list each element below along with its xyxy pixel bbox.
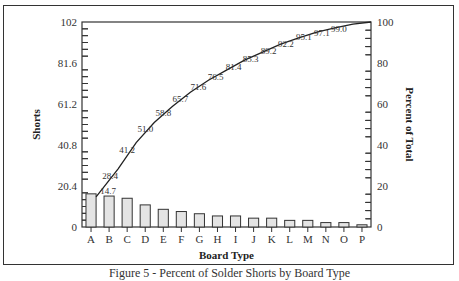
x-tick-label: E xyxy=(160,233,167,245)
data-label: 97.1 xyxy=(314,28,330,38)
data-label: 14.7 xyxy=(100,186,116,196)
y-tick-label: 20.4 xyxy=(58,180,78,192)
plot-area xyxy=(82,22,371,227)
y2-axis-title: Percent of Total xyxy=(404,87,416,161)
y-tick-label: 102 xyxy=(61,16,78,28)
data-label: 65.7 xyxy=(173,94,189,104)
data-label: 51.0 xyxy=(137,124,153,134)
data-label: 28.4 xyxy=(102,171,118,181)
x-tick-label: O xyxy=(340,233,348,245)
bar-M xyxy=(303,220,313,227)
y-tick-label: 0 xyxy=(72,221,78,233)
figure-caption: Figure 5 - Percent of Solder Shorts by B… xyxy=(0,266,459,281)
y-axis-title: Shorts xyxy=(30,109,42,140)
data-label: 58.8 xyxy=(155,108,171,118)
bar-G xyxy=(194,214,204,227)
x-tick-label: A xyxy=(87,233,95,245)
data-label: 71.6 xyxy=(191,82,207,92)
x-tick-label: B xyxy=(105,233,112,245)
data-label: 89.2 xyxy=(261,46,277,56)
data-label: 41.2 xyxy=(119,145,135,155)
bar-C xyxy=(122,198,132,227)
y-tick-label: 81.6 xyxy=(58,57,78,69)
bar-O xyxy=(339,223,349,227)
y2-tick-label: 100 xyxy=(377,16,394,28)
data-label: 92.2 xyxy=(278,39,294,49)
y2-tick-label: 40 xyxy=(377,139,389,151)
bar-H xyxy=(212,216,222,227)
x-tick-label: P xyxy=(359,233,365,245)
data-label: 81.4 xyxy=(226,62,242,72)
x-tick-label: F xyxy=(178,233,184,245)
x-tick-label: C xyxy=(123,233,130,245)
bar-F xyxy=(176,212,186,227)
y2-tick-label: 0 xyxy=(377,221,383,233)
data-label: 99.0 xyxy=(331,24,347,34)
bar-I xyxy=(230,216,240,227)
bar-N xyxy=(321,223,331,227)
x-tick-label: K xyxy=(268,233,276,245)
data-label: 76.5 xyxy=(208,72,224,82)
y2-tick-label: 80 xyxy=(377,57,389,69)
x-tick-label: D xyxy=(141,233,149,245)
bar-K xyxy=(267,218,277,227)
data-label: 85.3 xyxy=(243,54,259,64)
x-tick-label: G xyxy=(195,233,203,245)
bar-A xyxy=(86,194,96,227)
y2-tick-label: 20 xyxy=(377,180,389,192)
bar-E xyxy=(158,209,168,227)
data-label: 95.1 xyxy=(296,32,312,42)
x-tick-label: N xyxy=(322,233,330,245)
x-tick-label: J xyxy=(251,233,256,245)
bar-D xyxy=(140,205,150,227)
y2-tick-label: 60 xyxy=(377,98,389,110)
bar-B xyxy=(104,196,114,227)
cumulative-line xyxy=(96,22,371,197)
x-tick-label: M xyxy=(303,233,313,245)
x-tick-label: I xyxy=(234,233,238,245)
bar-P xyxy=(357,225,367,227)
x-tick-label: L xyxy=(286,233,293,245)
x-tick-label: H xyxy=(213,233,221,245)
x-axis-title: Board Type xyxy=(199,249,254,261)
bar-J xyxy=(249,218,259,227)
y-tick-label: 61.2 xyxy=(58,98,77,110)
y-tick-label: 40.8 xyxy=(58,139,78,151)
bar-L xyxy=(285,220,295,227)
